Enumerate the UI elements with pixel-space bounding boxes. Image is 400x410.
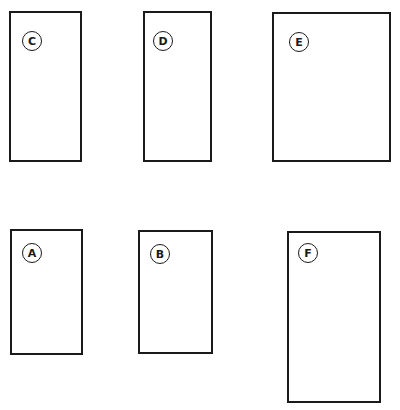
label-badge-e: E (289, 32, 309, 52)
rectangle-c (9, 11, 82, 162)
label-badge-d: D (153, 31, 173, 51)
label-badge-b: B (150, 244, 170, 264)
label-d: D (158, 36, 167, 47)
rectangle-a (10, 229, 83, 355)
label-badge-f: F (298, 243, 318, 263)
label-badge-c: C (22, 31, 42, 51)
label-c: C (28, 36, 36, 47)
label-f: F (304, 248, 312, 259)
rectangle-e (272, 12, 391, 162)
label-badge-a: A (22, 243, 42, 263)
label-a: A (28, 248, 37, 259)
rectangle-b (138, 230, 213, 354)
label-b: B (156, 249, 164, 260)
label-e: E (295, 37, 303, 48)
rectangle-d (143, 11, 212, 162)
